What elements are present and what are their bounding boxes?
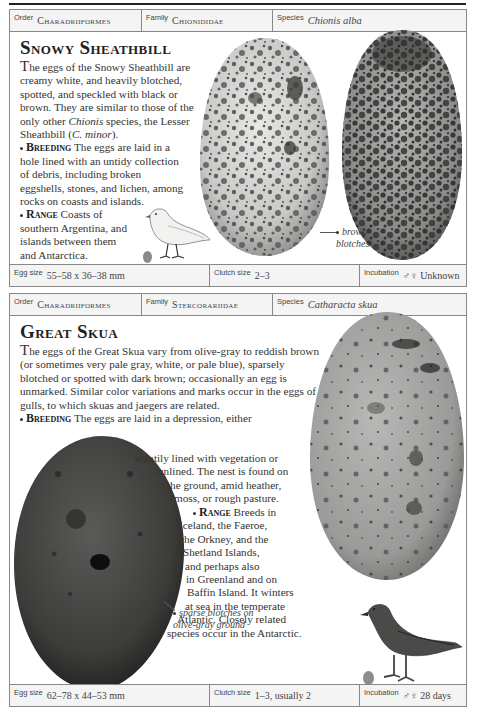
order-value: Charadriiformes <box>37 299 110 310</box>
clutch-size-label: Clutch size <box>214 268 251 277</box>
family-cell: Family Stercorariidae <box>142 294 273 315</box>
species-label: Species <box>277 297 304 306</box>
egg-size-value: 55–58 x 36–38 mm <box>47 270 125 281</box>
clutch-size-cell: Clutch size 2–3 <box>210 265 360 286</box>
egg-size-value: 62–78 x 44–53 mm <box>47 690 125 701</box>
egg-size-cell: Egg size 62–78 x 44–53 mm <box>10 685 210 706</box>
breeding-continuation: scantily lined with vegetation or unline… <box>129 452 288 506</box>
clutch-size-value: 1–3, usually 2 <box>255 690 311 701</box>
range-keyword: Range <box>199 505 231 519</box>
egg-facts-footer: Egg size 62–78 x 44–53 mm Clutch size 1–… <box>10 684 466 706</box>
species-label: Species <box>277 13 304 22</box>
description-text: The eggs of the Great Skua vary from oli… <box>20 344 460 425</box>
family-value: Chionididae <box>172 15 224 26</box>
incubation-cell: Incubation ♂♀ 28 days <box>360 685 466 706</box>
incubation-value: ♂♀ Unknown <box>403 270 460 281</box>
clutch-size-label: Clutch size <box>214 688 251 697</box>
order-label: Order <box>14 297 33 306</box>
clutch-size-cell: Clutch size 1–3, usually 2 <box>210 685 360 706</box>
order-value: Charadriiformes <box>37 15 110 26</box>
incubation-label: Incubation <box>364 688 399 697</box>
actual-size-egg-icon <box>363 671 374 685</box>
top-rule <box>9 3 466 5</box>
entry-snowy-sheathbill: Order Charadriiformes Family Chionididae… <box>9 9 467 287</box>
incubation-value: ♂♀ 28 days <box>403 690 451 701</box>
bird-illustration-skua <box>358 597 468 685</box>
range-keyword: Range <box>26 207 58 221</box>
family-label: Family <box>146 297 168 306</box>
incubation-cell: Incubation ♂♀ Unknown <box>360 265 466 286</box>
order-cell: Order Charadriiformes <box>10 294 142 315</box>
egg-facts-footer: Egg size 55–58 x 36–38 mm Clutch size 2–… <box>10 264 466 286</box>
species-title: Great Skua <box>20 321 118 343</box>
breeding-paragraph: Breeding The eggs are laid in a depressi… <box>20 412 460 425</box>
egg-size-cell: Egg size 55–58 x 36–38 mm <box>10 265 210 286</box>
breeding-paragraph: Breeding The eggs are laid in a hole lin… <box>20 141 185 208</box>
incubation-label: Incubation <box>364 268 399 277</box>
order-cell: Order Charadriiformes <box>10 10 142 31</box>
family-label: Family <box>146 13 168 22</box>
breeding-keyword: Breeding <box>26 411 71 425</box>
range-paragraph: Range Coasts of southern Argentina, and … <box>20 208 135 262</box>
clutch-size-value: 2–3 <box>255 270 270 281</box>
entry-great-skua: Order Charadriiformes Family Stercorarii… <box>9 293 467 707</box>
actual-size-egg-icon <box>143 251 152 263</box>
breeding-keyword: Breeding <box>26 140 71 154</box>
annotation-sparse-blotches: sparse blotches on olive-gray ground <box>173 607 253 630</box>
family-value: Stercorariidae <box>172 299 238 310</box>
egg-size-label: Egg size <box>14 688 43 697</box>
species-title: Snowy Sheathbill <box>20 37 171 59</box>
egg-size-label: Egg size <box>14 268 43 277</box>
annotation-brown-blotches: brown blotches <box>336 226 369 249</box>
order-label: Order <box>14 13 33 22</box>
